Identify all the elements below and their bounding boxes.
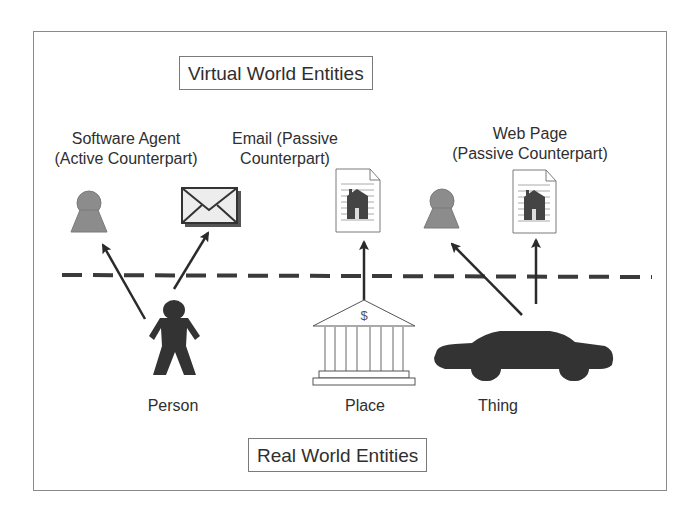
email-envelope-icon bbox=[182, 188, 241, 227]
car-icon bbox=[434, 331, 613, 381]
person-to-agent-arrow bbox=[103, 245, 145, 319]
web-page-label-line2: (Passive Counterpart) bbox=[430, 144, 630, 164]
place-label: Place bbox=[322, 396, 408, 416]
software-agent-agent-icon bbox=[71, 191, 107, 232]
bank-icon: $ bbox=[313, 300, 415, 385]
person-icon bbox=[149, 300, 200, 375]
email-label-line2: Counterpart) bbox=[220, 149, 350, 169]
bank-dollar-sign: $ bbox=[360, 308, 368, 323]
person-label: Person bbox=[130, 396, 216, 416]
thing-agent-icon bbox=[424, 189, 459, 228]
web-page-label: Web Page (Passive Counterpart) bbox=[430, 124, 630, 164]
person-to-email-arrow bbox=[174, 233, 208, 289]
virtual-world-entities-label: Virtual World Entities bbox=[179, 56, 373, 90]
virtual-real-divider bbox=[62, 275, 652, 277]
email-label: Email (Passive Counterpart) bbox=[220, 129, 350, 169]
email-label-line1: Email (Passive bbox=[220, 129, 350, 149]
thing-to-agent-arrow bbox=[452, 244, 522, 315]
software-agent-label-line1: Software Agent bbox=[40, 129, 212, 149]
thing-label: Thing bbox=[455, 396, 541, 416]
web-page-icon bbox=[513, 170, 556, 233]
software-agent-label-line2: (Active Counterpart) bbox=[40, 149, 212, 169]
place-web-page-icon bbox=[336, 169, 380, 232]
software-agent-label: Software Agent (Active Counterpart) bbox=[40, 129, 212, 169]
web-page-label-line1: Web Page bbox=[430, 124, 630, 144]
real-world-entities-label: Real World Entities bbox=[248, 438, 427, 472]
